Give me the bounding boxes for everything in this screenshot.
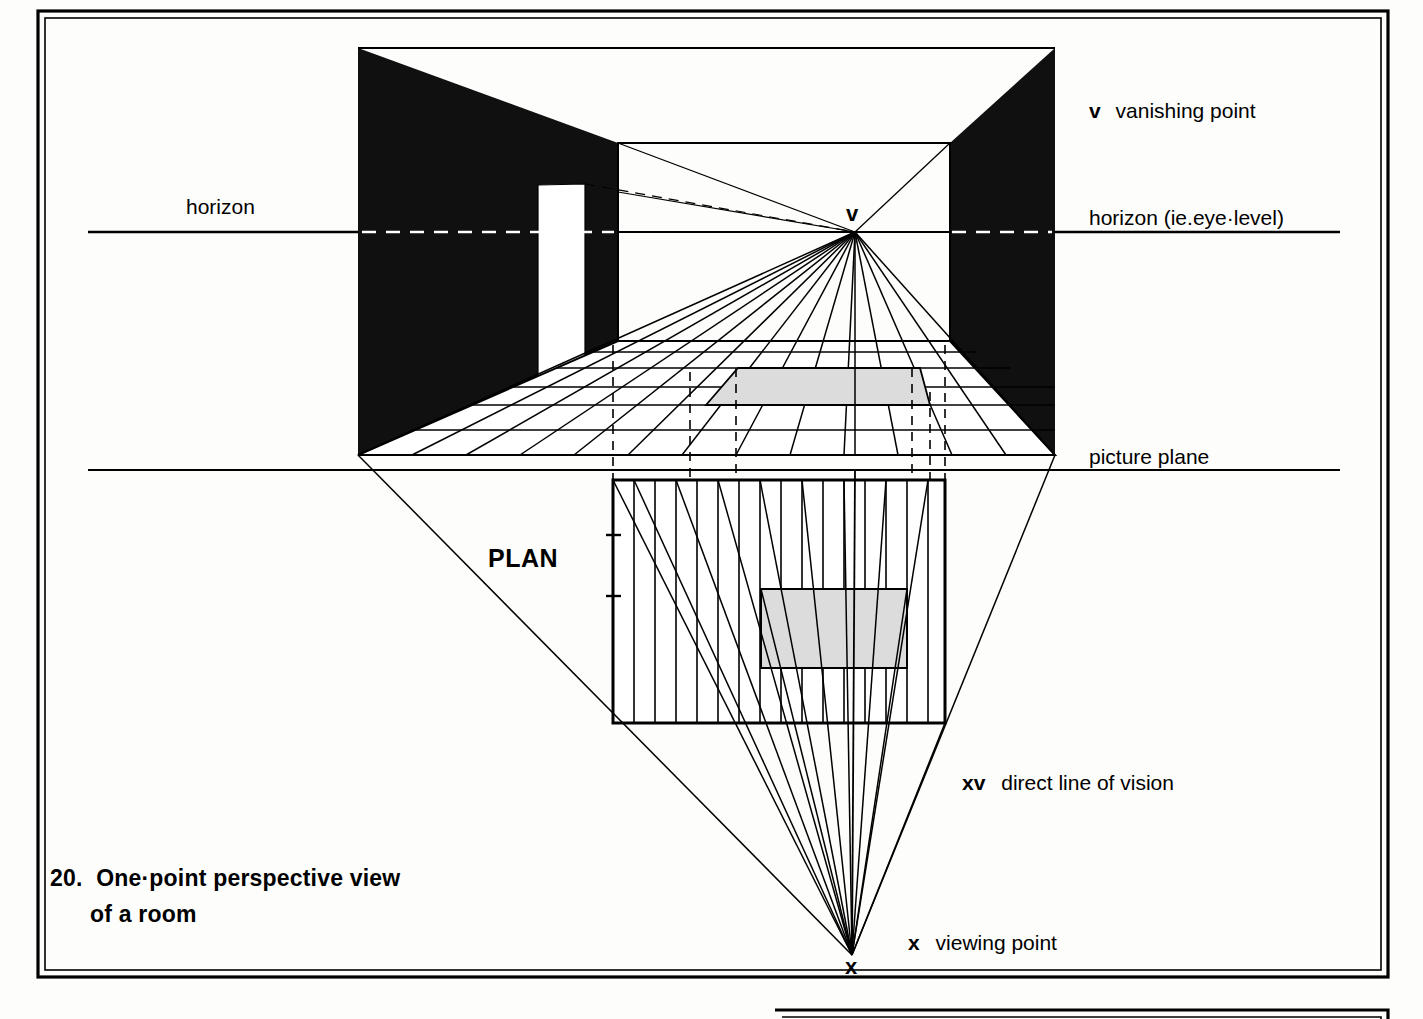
doorway-head-line — [618, 192, 855, 232]
figure-caption: 20. One·point perspective view of a room — [50, 861, 400, 932]
picture-plane-label: picture plane — [1089, 446, 1209, 467]
viewing-point-mark: x — [845, 956, 857, 978]
vanishing-point-text: vanishing point — [1116, 99, 1256, 122]
vanishing-point-mark: v — [846, 203, 858, 225]
floor-table-shaded — [706, 368, 930, 405]
vanishing-point-legend: v vanishing point — [1089, 100, 1256, 121]
ceiling-edge-left — [618, 143, 855, 232]
viewing-point-legend: x viewing point — [908, 932, 1057, 953]
vanishing-point-key: v — [1089, 99, 1101, 122]
viewing-point-key: x — [908, 931, 920, 954]
plan-label: PLAN — [488, 546, 558, 571]
back-wall — [618, 143, 950, 341]
horizon-right-label: horizon (ie.eye·level) — [1089, 207, 1284, 228]
line-of-vision-key: xv — [962, 771, 985, 794]
ceiling-edge-right — [855, 143, 950, 232]
horizon-left-label: horizon — [186, 196, 255, 217]
line-of-vision-text: direct line of vision — [1001, 771, 1174, 794]
figure-caption-number: 20. — [50, 865, 83, 891]
figure-canvas: horizon v vanishing point horizon (ie.ey… — [0, 0, 1423, 1019]
viewing-point-text: viewing point — [936, 931, 1057, 954]
figure-caption-title: One·point perspective view — [96, 865, 400, 891]
line-of-vision-legend: xv direct line of vision — [962, 772, 1174, 793]
figure-caption-line2: of a room — [90, 897, 400, 933]
figure-caption-line1: 20. One·point perspective view — [50, 861, 400, 897]
